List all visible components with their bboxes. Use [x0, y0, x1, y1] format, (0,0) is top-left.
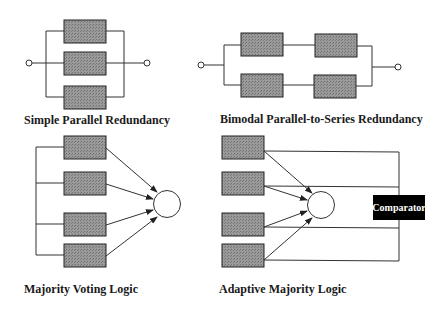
module-box	[241, 74, 283, 97]
simple-parallel-title: Simple Parallel Redundancy	[24, 114, 170, 126]
input-terminal-icon	[198, 62, 204, 68]
module-box	[64, 136, 106, 159]
module-box	[64, 86, 106, 109]
voter-circle-icon	[308, 192, 335, 219]
output-terminal-icon	[395, 64, 401, 70]
bimodal-diagram	[198, 33, 401, 98]
module-box	[64, 172, 106, 195]
output-terminal-icon	[144, 60, 150, 66]
module-box	[241, 33, 283, 56]
majority-voting-diagram	[36, 136, 181, 267]
input-terminal-icon	[26, 60, 32, 66]
module-box	[222, 213, 264, 236]
redundancy-diagrams-canvas	[0, 0, 445, 316]
module-box	[64, 244, 106, 267]
module-box	[315, 34, 357, 57]
comparator-box: Comparator	[373, 195, 425, 220]
simple-parallel-diagram	[26, 20, 150, 109]
module-box	[314, 75, 356, 98]
adaptive-majority-title: Adaptive Majority Logic	[219, 283, 346, 295]
module-box	[64, 213, 106, 236]
voter-circle-icon	[154, 191, 181, 218]
bimodal-title: Bimodal Parallel-to-Series Redundancy	[220, 113, 423, 125]
module-box	[64, 52, 106, 75]
module-box	[222, 136, 264, 159]
majority-voting-title: Majority Voting Logic	[24, 283, 138, 295]
module-box	[222, 172, 264, 195]
module-box	[64, 20, 106, 43]
module-box	[222, 244, 264, 267]
